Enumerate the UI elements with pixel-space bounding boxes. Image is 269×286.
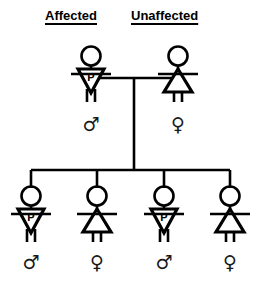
affected-label-p: P	[27, 211, 34, 223]
person-father-affected-male: P	[66, 45, 116, 103]
person-mother-unaffected-female	[153, 45, 203, 103]
person-child-1-affected-male: P	[6, 185, 56, 243]
head	[169, 47, 188, 66]
torso-upright-triangle	[216, 209, 244, 232]
torso-upright-triangle	[164, 69, 192, 92]
gender-symbol-child-3-male: ♂	[155, 253, 172, 272]
head	[22, 187, 41, 206]
column-header-unaffected: Unaffected	[131, 8, 198, 23]
pedigree-connector-lines	[0, 0, 269, 286]
head	[221, 187, 240, 206]
gender-symbol-child-2-female: ♀	[90, 253, 104, 272]
pedigree-diagram: Affected Unaffected P	[0, 0, 269, 286]
head	[82, 47, 101, 66]
column-header-affected: Affected	[45, 8, 97, 23]
affected-label-p: P	[87, 71, 94, 83]
gender-symbol-child-4-female: ♀	[223, 253, 237, 272]
person-child-2-unaffected-female	[72, 185, 122, 243]
gender-symbol-father-male: ♂	[82, 115, 99, 134]
gender-symbol-child-1-male: ♂	[22, 253, 39, 272]
head	[88, 187, 107, 206]
gender-symbol-mother-female: ♀	[171, 115, 185, 134]
head	[155, 187, 174, 206]
person-child-4-unaffected-female	[205, 185, 255, 243]
person-child-3-affected-male: P	[139, 185, 189, 243]
affected-label-p: P	[160, 211, 167, 223]
torso-upright-triangle	[83, 209, 111, 232]
